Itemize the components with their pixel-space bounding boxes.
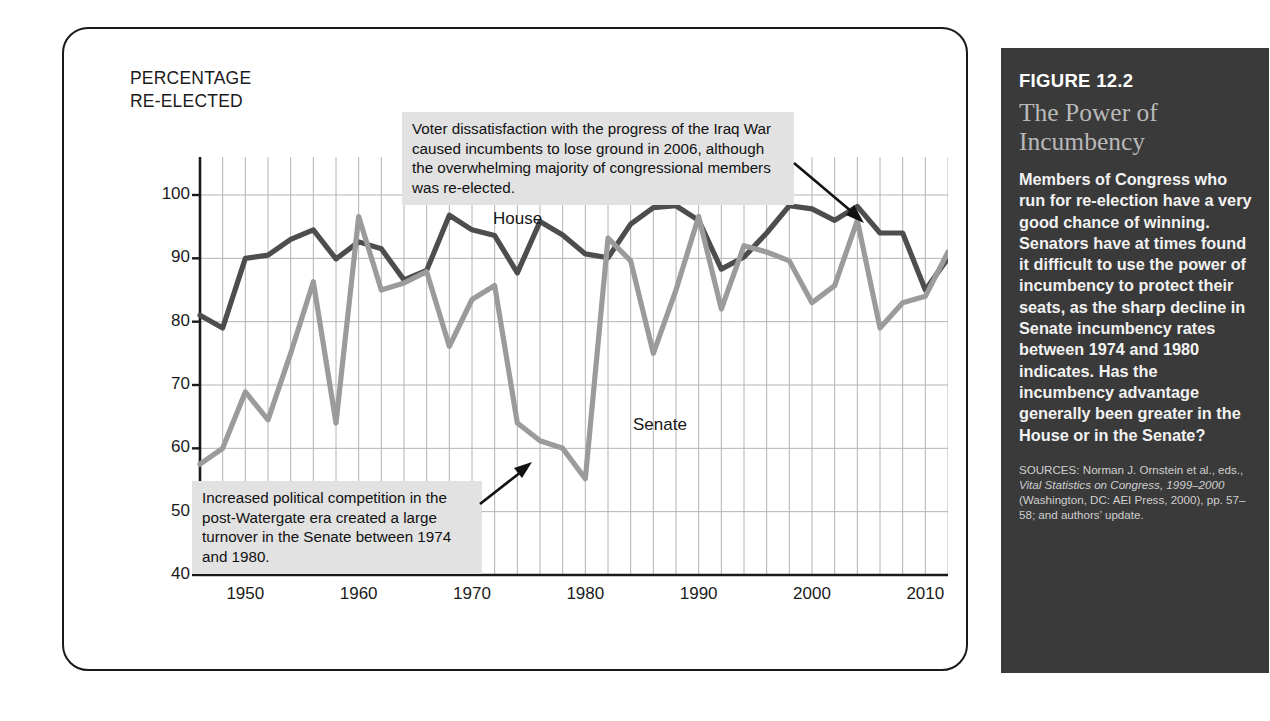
y-axis-tick-label: 50 <box>146 501 190 521</box>
figure-caption-body: Members of Congress who run for re-elect… <box>1019 169 1253 446</box>
series-label-house: House <box>493 209 542 229</box>
callout-iraq-war: Voter dissatisfaction with the progress … <box>402 112 794 205</box>
y-axis-tick-label: 40 <box>146 564 190 584</box>
sources-suffix: (Washington, DC: AEI Press, 2000), pp. 5… <box>1019 493 1245 521</box>
figure-sidebar: FIGURE 12.2 The Power of Incumbency Memb… <box>1001 48 1269 673</box>
arrow-to-senate-decline <box>476 454 546 514</box>
series-label-senate: Senate <box>633 415 687 435</box>
y-axis-tick-label: 60 <box>146 437 190 457</box>
figure-page: PERCENTAGE RE-ELECTED 405060708090100 19… <box>0 0 1270 721</box>
callout-post-watergate: Increased political competition in the p… <box>192 481 482 574</box>
x-axis-tick-label: 1990 <box>669 584 729 604</box>
figure-sources: SOURCES: Norman J. Ornstein et al., eds.… <box>1019 462 1253 522</box>
figure-card: PERCENTAGE RE-ELECTED 405060708090100 19… <box>62 27 968 671</box>
chart-series <box>200 206 948 479</box>
y-axis-tick-label: 80 <box>146 311 190 331</box>
y-axis-tick-label: 90 <box>146 247 190 267</box>
series-line-senate <box>200 217 948 479</box>
arrow-to-2006 <box>790 157 890 237</box>
x-axis-tick-label: 2010 <box>895 584 955 604</box>
y-axis-tick-label: 70 <box>146 374 190 394</box>
x-axis-tick-label: 1970 <box>442 584 502 604</box>
y-axis-tick-label: 100 <box>146 184 190 204</box>
x-axis-tick-label: 1950 <box>215 584 275 604</box>
sources-title-italic: Vital Statistics on Congress, 1999–2000 <box>1019 478 1224 491</box>
x-axis-tick-label: 1980 <box>555 584 615 604</box>
x-axis-tick-label: 2000 <box>782 584 842 604</box>
y-axis-title: PERCENTAGE RE-ELECTED <box>130 67 251 113</box>
figure-number: FIGURE 12.2 <box>1019 70 1253 92</box>
x-axis-tick-label: 1960 <box>329 584 389 604</box>
sources-prefix: SOURCES: Norman J. Ornstein et al., eds.… <box>1019 463 1243 476</box>
figure-title: The Power of Incumbency <box>1019 98 1253 156</box>
